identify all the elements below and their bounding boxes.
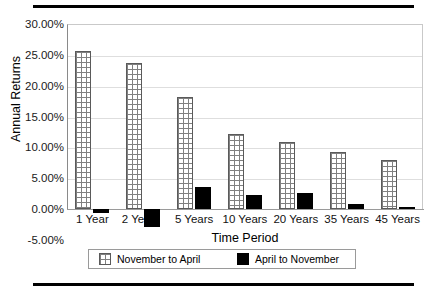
gridline bbox=[68, 148, 422, 149]
x-tick-label: 20 Years bbox=[270, 213, 321, 225]
x-tick-label: 45 Years bbox=[372, 213, 423, 225]
y-tick-label: 5.00% bbox=[2, 172, 64, 184]
x-tick-label: 35 Years bbox=[321, 213, 372, 225]
bar-april-to-november bbox=[348, 204, 364, 209]
annual-returns-bar-chart: Annual Returns 30.00%25.00%20.00%15.00%1… bbox=[0, 0, 445, 294]
chart-legend: November to April April to November bbox=[88, 249, 356, 269]
x-tick-label: 2 Ye bbox=[118, 213, 169, 225]
x-tick-label: 1 Year bbox=[67, 213, 118, 225]
bar-november-to-april bbox=[279, 142, 295, 209]
legend-item-april-to-november: April to November bbox=[237, 253, 339, 265]
bar-november-to-april bbox=[228, 134, 244, 209]
bar-april-to-november bbox=[297, 193, 313, 209]
bar-november-to-april bbox=[381, 160, 397, 209]
y-tick-label: 20.00% bbox=[2, 80, 64, 92]
legend-swatch-black-icon bbox=[237, 253, 249, 265]
legend-swatch-white-icon bbox=[99, 253, 111, 265]
gridline bbox=[68, 179, 422, 180]
legend-item-november-to-april: November to April bbox=[99, 253, 200, 265]
x-tick-label: 10 Years bbox=[220, 213, 271, 225]
plot-area bbox=[67, 24, 423, 209]
gridline bbox=[68, 87, 422, 88]
bar-november-to-april bbox=[177, 97, 193, 209]
bar-april-to-november bbox=[144, 209, 160, 227]
y-axis: Annual Returns 30.00%25.00%20.00%15.00%1… bbox=[0, 0, 64, 294]
y-tick-label: 30.00% bbox=[2, 18, 64, 30]
bar-november-to-april bbox=[75, 51, 91, 209]
bar-april-to-november bbox=[93, 209, 109, 213]
y-tick-label: 15.00% bbox=[2, 111, 64, 123]
x-axis-title: Time Period bbox=[67, 231, 423, 245]
bar-april-to-november bbox=[246, 195, 262, 209]
bar-april-to-november bbox=[399, 207, 415, 209]
y-tick-label: 10.00% bbox=[2, 141, 64, 153]
zero-axis-line bbox=[67, 209, 424, 210]
gridline bbox=[68, 118, 422, 119]
legend-label-november-to-april: November to April bbox=[117, 253, 200, 265]
bar-april-to-november bbox=[195, 187, 211, 209]
y-tick-label: 25.00% bbox=[2, 49, 64, 61]
x-tick-label: 5 Years bbox=[169, 213, 220, 225]
legend-label-april-to-november: April to November bbox=[255, 253, 339, 265]
y-tick-label: 0.00% bbox=[2, 203, 64, 215]
y-tick-label: -5.00% bbox=[2, 234, 64, 246]
bar-november-to-april bbox=[126, 63, 142, 209]
bar-november-to-april bbox=[330, 152, 346, 209]
gridline bbox=[68, 56, 422, 57]
